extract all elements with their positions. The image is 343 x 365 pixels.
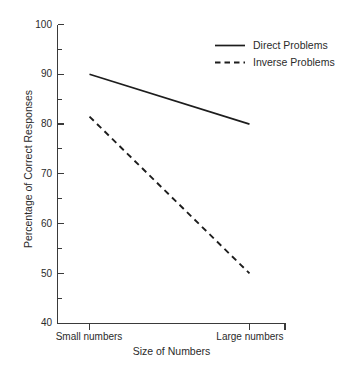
x-tick-label-large-numbers: Large numbers [190,331,310,342]
chart-canvas [0,0,343,365]
x-tick-label-small-numbers: Small numbers [29,331,149,342]
legend-label-inverse-problems: Inverse Problems [253,56,335,68]
series-direct-problems [90,74,250,124]
line-chart: 100 90 80 70 60 50 40 Small numbers Larg… [0,0,343,365]
y-tick-label-90: 90 [26,68,52,79]
y-tick-label-40: 40 [26,317,52,328]
series-inverse-problems [90,117,250,274]
y-tick-label-100: 100 [26,19,52,30]
y-tick-label-50: 50 [26,268,52,279]
legend-label-direct-problems: Direct Problems [253,39,328,51]
x-axis-title: Size of Numbers [0,345,343,357]
y-axis-title: Percentage of Correct Responses [22,89,34,249]
